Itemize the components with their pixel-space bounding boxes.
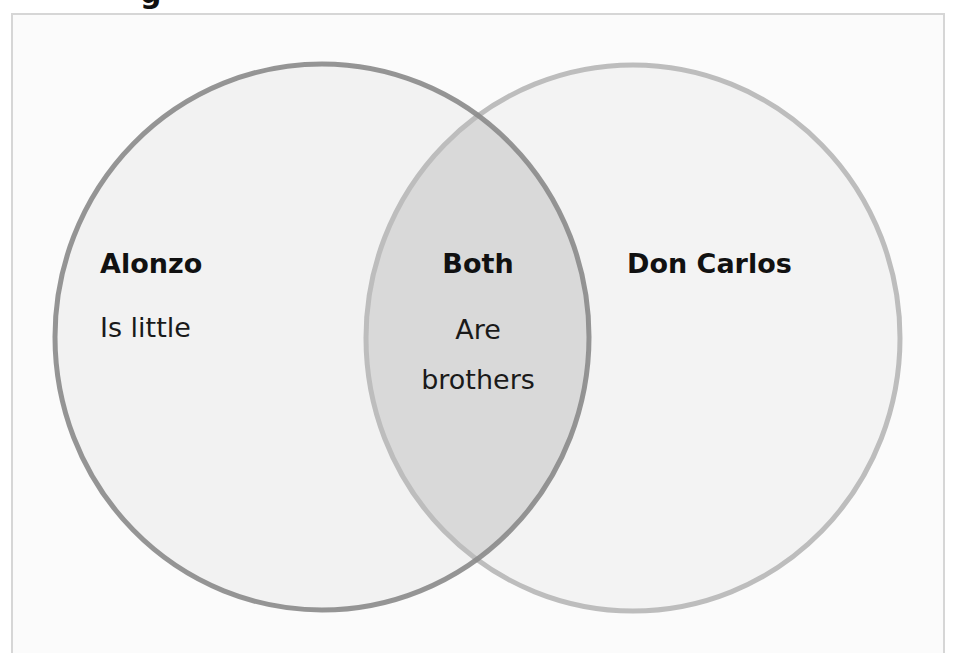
right-set-heading: Don Carlos xyxy=(627,248,792,279)
overlap-item-line-1: Are xyxy=(398,307,558,353)
left-set-heading: Alonzo xyxy=(100,248,202,279)
overlap-item-line-2: brothers xyxy=(398,357,558,403)
left-set-item: Is little xyxy=(100,305,191,351)
overlap-heading: Both xyxy=(398,248,558,279)
